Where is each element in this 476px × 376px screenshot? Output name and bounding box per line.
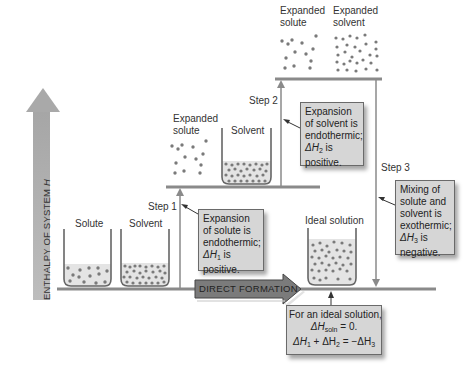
solvent-middle-label: Solvent (231, 125, 264, 137)
step-3-pointer-icon (378, 197, 395, 205)
ideal-solution-label: Ideal solution (305, 215, 364, 227)
expanded-solute-middle-label: Expanded solute (173, 113, 218, 137)
step-2-pointer-icon (283, 119, 300, 128)
expanded-solute-middle-particles-icon (170, 139, 207, 174)
step-3-arrow-icon (372, 79, 380, 287)
step-1-label: Step 1 (148, 201, 177, 213)
expanded-solvent-top-particles-icon (334, 33, 378, 72)
direct-formation-label: DIRECT FORMATION (199, 283, 298, 294)
solvent-beaker-icon (121, 229, 169, 286)
step-2-label: Step 2 (249, 95, 278, 107)
solute-label: Solute (75, 218, 103, 230)
step-1-arrow-icon (176, 188, 184, 288)
step-3-callout: Mixing of solute and solvent is exotherm… (395, 180, 455, 255)
solute-beaker-icon (64, 229, 111, 286)
step-3-label: Step 3 (381, 162, 410, 174)
ideal-solution-beaker-icon (308, 228, 356, 285)
expanded-solvent-top-label: Expanded solvent (333, 5, 378, 29)
expanded-solute-top-particles-icon (280, 34, 317, 69)
step-1-pointer-icon (181, 204, 198, 214)
step-1-callout: Expansion of solute is endothermic; ΔH1 … (198, 209, 264, 271)
step-2-arrow-icon (277, 80, 285, 187)
step-2-callout: Expansion of solvent is endothermic; ΔH2… (300, 102, 364, 166)
ideal-solution-note: For an ideal solution, ΔHsoln = 0. ΔH1 +… (286, 305, 382, 355)
enthalpy-axis-label: ENTHALPY OF SYSTEM H (41, 179, 52, 300)
ideal-note-pointer-icon (328, 291, 334, 305)
expanded-solute-top-label: Expanded solute (280, 5, 325, 29)
solvent-label: Solvent (129, 218, 162, 230)
